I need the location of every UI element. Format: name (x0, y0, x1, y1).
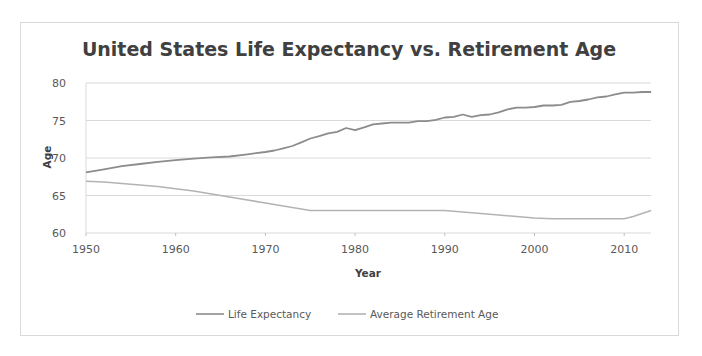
legend-item-average-retirement-age[interactable]: Average Retirement Age (338, 308, 498, 320)
legend-label: Average Retirement Age (370, 308, 498, 320)
series-line-average-retirement-age (86, 181, 651, 219)
x-tick-label: 1990 (431, 243, 459, 256)
x-tick-label: 1960 (162, 243, 190, 256)
x-tick-label: 1970 (251, 243, 279, 256)
y-tick-label: 75 (52, 115, 66, 128)
y-tick-label: 60 (52, 227, 66, 240)
y-tick-label: 70 (52, 152, 66, 165)
x-tick-label: 2010 (610, 243, 638, 256)
x-tick-label: 1950 (72, 243, 100, 256)
series-lines (86, 92, 651, 219)
y-axis-tick-labels: 6065707580 (52, 77, 66, 240)
y-tick-label: 65 (52, 190, 66, 203)
legend-item-life-expectancy[interactable]: Life Expectancy (196, 308, 311, 320)
x-tick-label: 2000 (521, 243, 549, 256)
chart-title: United States Life Expectancy vs. Retire… (82, 38, 616, 60)
y-axis-title: Age (41, 146, 53, 169)
x-tick-label: 1980 (341, 243, 369, 256)
line-chart: United States Life Expectancy vs. Retire… (0, 0, 702, 356)
legend-label: Life Expectancy (228, 308, 311, 320)
x-axis-tick-labels: 1950196019701980199020002010 (72, 243, 638, 256)
legend: Life Expectancy Average Retirement Age (196, 308, 498, 320)
series-line-life-expectancy (86, 92, 651, 172)
x-axis-title: Year (354, 267, 382, 279)
y-tick-label: 80 (52, 77, 66, 90)
